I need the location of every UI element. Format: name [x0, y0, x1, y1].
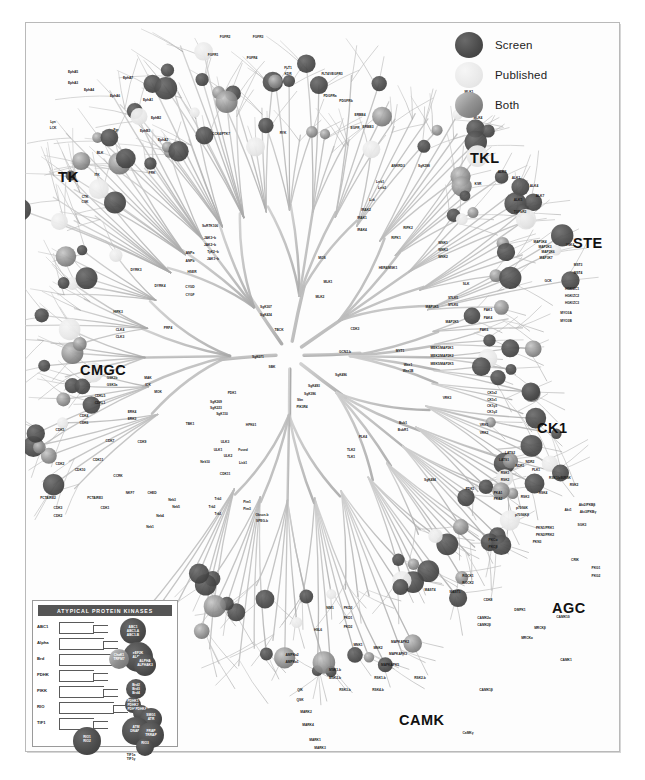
kinase-label: CCK4/PTK7 — [212, 132, 230, 136]
kinase-label: KDR — [285, 72, 292, 76]
kinase-label: PLK4 — [359, 435, 367, 439]
kinase-label: CDK11 — [93, 458, 103, 462]
kinase-label: TGFbR2 — [514, 210, 527, 214]
atypical-family-row: PDHK — [33, 667, 177, 683]
kinase-label: JAK3~b — [204, 236, 216, 240]
kinase-label: SPEG-b — [256, 519, 268, 523]
kinase-label: DYRK4 — [155, 284, 166, 288]
kinase-label: CK1ε1 — [487, 398, 497, 402]
atypical-family-row: Alpha — [33, 635, 177, 651]
kinase-label: WNK2 — [438, 255, 448, 259]
legend-item-screen: Screen — [455, 30, 605, 60]
kinase-label: PKN3 — [533, 540, 542, 544]
group-label-ck1: CK1 — [537, 420, 568, 436]
kinase-label: CDK1 — [101, 506, 110, 510]
kinase-label: MAPKAPK2 — [391, 640, 409, 644]
kinase-label: NDR1 — [516, 464, 525, 468]
atypical-bracket — [59, 702, 114, 714]
kinase-label: EphB2 — [151, 116, 161, 120]
kinase-label: BLK — [97, 151, 104, 155]
kinase-label: EphA2 — [158, 138, 168, 142]
kinase-label: ERBB4 — [355, 113, 366, 117]
kinase-label: SLK — [463, 282, 469, 286]
kinase-label: RIPK1 — [391, 236, 400, 240]
kinase-label: HGK/ZC1 — [565, 287, 579, 291]
kinase-label: MEK2/MAP2K2 — [431, 354, 454, 358]
atypical-family-row: PIKK — [33, 683, 177, 699]
kinase-label: CDK3 — [351, 327, 360, 331]
kinase-label: EphA7 — [123, 76, 133, 80]
kinase-label: VRK1 — [480, 423, 489, 427]
atypical-bracket — [59, 638, 104, 650]
atypical-family-label: ABC1 — [37, 624, 48, 629]
kinase-label: CYGD — [185, 285, 194, 289]
kinase-label: Lyn — [50, 120, 56, 124]
kinase-label: Trb3 — [215, 497, 222, 501]
kinase-label: MLK1 — [324, 280, 333, 284]
kinase-label: JAK1~b — [207, 257, 219, 261]
kinase-label: FGFR4 — [247, 56, 258, 60]
kinase-label: DMPK1 — [514, 608, 525, 612]
kinase-label: EphA4 — [84, 88, 94, 92]
legend-swatch-both — [455, 92, 483, 118]
kinase-label: CK1ε2 — [487, 391, 497, 395]
kinase-label: Wee1B — [403, 369, 414, 373]
kinase-label: RSK2 — [501, 478, 510, 482]
kinase-label: CDK2 — [54, 514, 63, 518]
kinase-label: ALK2 — [498, 170, 506, 174]
kinase-label: HIPK3 — [113, 310, 122, 314]
kinase-label: FLT1 — [284, 66, 291, 70]
kinase-label: MSK1-b — [329, 668, 341, 672]
kinase-label: MSK2-b — [329, 676, 341, 680]
kinase-label: MAP2K3 — [538, 245, 551, 249]
atypical-family-label: Brd — [37, 656, 44, 661]
kinase-label: MAP3K4 — [533, 240, 546, 244]
kinase-label: Akt2/PKBβ — [579, 503, 596, 507]
kinase-label: ANPb — [186, 259, 195, 263]
legend: Screen Published Both — [455, 30, 605, 120]
atypical-kinase-label: FRAPTRRAP — [135, 730, 167, 738]
kinase-label: CAMK2α — [477, 616, 490, 620]
kinase-label: PLK1 — [532, 468, 540, 472]
kinase-label: p70S6K — [516, 506, 528, 510]
atypical-kinase-label: ALPHAALPHAK3 — [129, 660, 161, 668]
group-label-tk: TK — [58, 168, 79, 185]
kinase-label: Nek3 — [168, 498, 176, 502]
kinase-label: PDK1 — [466, 487, 475, 491]
kinase-label: CYGF — [186, 293, 195, 297]
kinase-label: MARK3 — [314, 746, 325, 750]
kinase-label: ERK4 — [128, 410, 137, 414]
kinase-label: SgK223 — [210, 406, 222, 410]
kinase-label: ULK2 — [224, 454, 232, 458]
kinase-label: ANPa — [186, 251, 195, 255]
kinase-label: SGK3 — [578, 523, 587, 527]
group-label-cmgc: CMGC — [80, 362, 126, 378]
kinase-label: PKN1/PRK1 — [536, 526, 554, 530]
kinase-label: TBK1 — [186, 422, 194, 426]
kinase-label: ALK7 — [536, 194, 544, 198]
kinase-label: Lzk — [369, 198, 374, 202]
kinome-figure: FGFR2FGFR3FGFR1FGFR4FLT1KDRFLT4/VEGFR3PD… — [0, 0, 645, 780]
kinase-label: CAMK1β — [479, 688, 492, 692]
kinase-label: CDKL5 — [95, 394, 106, 398]
kinase-label: FRK — [149, 171, 156, 175]
atypical-family-label: PIKK — [37, 688, 47, 693]
kinase-label: Lrrk2 — [378, 186, 386, 190]
kinase-label: ANKRD3 — [391, 164, 404, 168]
legend-label-both: Both — [495, 99, 519, 111]
kinase-label: PDGFRa — [323, 94, 336, 98]
kinase-label: Lisk1 — [239, 461, 247, 465]
kinase-label: ERK3 — [128, 417, 137, 421]
group-label-camk: CAMK — [399, 712, 445, 728]
kinase-label: FGFR3 — [253, 35, 264, 39]
kinase-label: Obscn-b — [255, 513, 268, 517]
kinase-label: CDK4 — [80, 414, 89, 418]
group-label-tkl: TKL — [470, 150, 500, 166]
kinase-label: MARK2 — [300, 710, 311, 714]
kinase-label: PKD3 — [344, 606, 353, 610]
kinase-label: PAK1 — [484, 308, 492, 312]
kinase-label: ICK — [145, 383, 151, 387]
kinase-label: MOK — [154, 390, 162, 394]
kinase-label: ULK3 — [221, 440, 229, 444]
kinase-label: Lrrk1 — [376, 180, 384, 184]
